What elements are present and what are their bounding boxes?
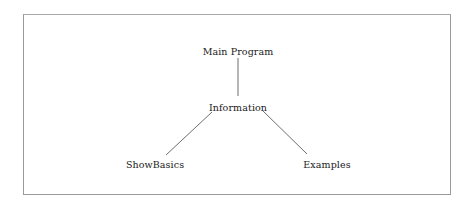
node-main-program: Main Program [203,46,274,57]
edge-information-to-showbasics [166,112,212,155]
edge-information-to-examples [263,111,307,154]
node-information: Information [209,102,267,113]
node-showbasics: ShowBasics [126,159,184,170]
node-examples: Examples [303,159,350,170]
